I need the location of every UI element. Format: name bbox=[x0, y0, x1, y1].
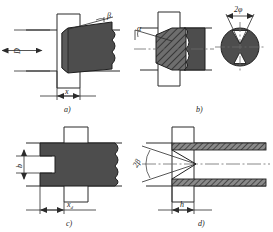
panel-c-dim-xd bbox=[26, 186, 96, 214]
label-b: b bbox=[15, 164, 24, 168]
label-x: x bbox=[64, 87, 69, 96]
label-D: D bbox=[13, 48, 22, 55]
panel-d-slot-outline bbox=[146, 127, 266, 202]
panel-c-tool-body bbox=[40, 143, 118, 186]
panel-b-end-view: 2φ bbox=[215, 5, 265, 72]
caption-a: a) bbox=[64, 105, 71, 114]
label-h: h bbox=[180, 200, 184, 209]
panel-a: β D x a) bbox=[3, 11, 121, 114]
label-2phi: 2φ bbox=[234, 5, 243, 14]
panel-d-lower-bar bbox=[172, 179, 266, 186]
panel-d-dim-h bbox=[158, 186, 212, 214]
panel-c: b xd c) bbox=[15, 127, 122, 228]
panel-d-upper-bar bbox=[172, 143, 266, 150]
panel-b: α 2φ b) bbox=[134, 5, 265, 114]
panel-d: 2β h d) bbox=[131, 127, 270, 228]
label-xd-subscript: d bbox=[71, 205, 74, 210]
caption-b: b) bbox=[196, 105, 203, 114]
panel-d-point bbox=[172, 150, 196, 179]
panel-a-tool-body bbox=[62, 22, 115, 73]
drawing-canvas: β D x a) bbox=[0, 0, 273, 232]
engineering-drawing-figure: β D x a) bbox=[0, 0, 273, 232]
caption-c: c) bbox=[66, 219, 73, 228]
caption-d: d) bbox=[198, 219, 205, 228]
panel-a-dim-D bbox=[3, 30, 51, 71]
label-2beta: 2β bbox=[131, 158, 143, 169]
label-beta: β bbox=[106, 11, 111, 20]
